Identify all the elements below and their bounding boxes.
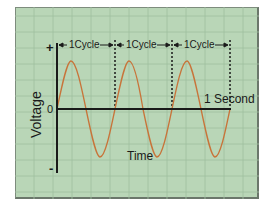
cycle-label-3: 1Cycle — [184, 40, 215, 50]
x-axis-label: Time — [127, 150, 153, 162]
y-positive-label: + — [46, 41, 54, 54]
y-zero-label: 0 — [47, 104, 53, 115]
cycle-label-1: 1Cycle — [69, 40, 100, 50]
cycle-label-2: 1Cycle — [126, 40, 157, 50]
y-negative-label: - — [49, 162, 53, 175]
duration-label: 1 Second — [204, 93, 255, 105]
y-axis-label: Voltage — [29, 91, 43, 138]
